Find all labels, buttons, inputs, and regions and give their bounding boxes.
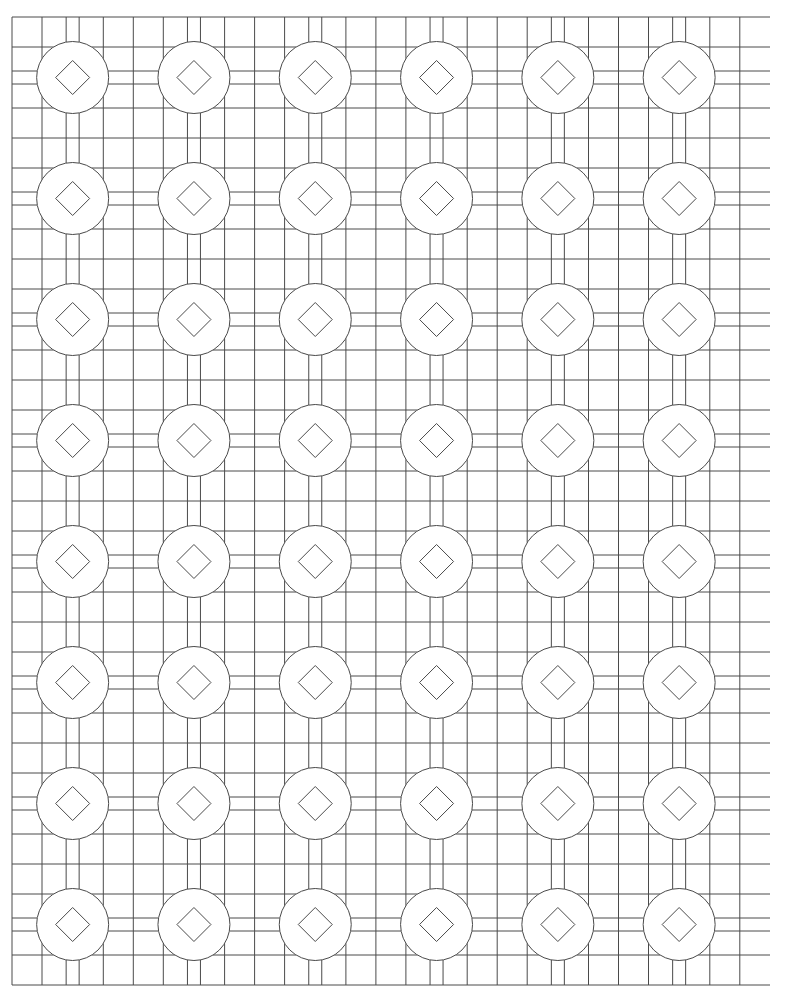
circle-outline	[279, 163, 351, 235]
circle-outline	[279, 647, 351, 719]
circle-outline	[158, 647, 230, 719]
circle-outline	[401, 42, 473, 114]
circle-outline	[37, 163, 109, 235]
circle-outline	[279, 284, 351, 356]
circle-outline	[401, 768, 473, 840]
pattern-artwork	[0, 0, 786, 993]
circle-outline	[522, 405, 594, 477]
circle-outline	[279, 526, 351, 598]
circle-outline	[158, 526, 230, 598]
circle-outline	[643, 526, 715, 598]
circle-outline	[37, 284, 109, 356]
circle-outline	[401, 284, 473, 356]
circle-outline	[158, 768, 230, 840]
circle-outline	[401, 163, 473, 235]
circle-outline	[522, 889, 594, 961]
circle-outline	[643, 768, 715, 840]
circle-outline	[522, 42, 594, 114]
circle-outline	[279, 42, 351, 114]
circle-outline	[279, 405, 351, 477]
circle-outline	[643, 42, 715, 114]
circle-outline	[643, 163, 715, 235]
circle-outline	[401, 647, 473, 719]
circle-outline	[522, 284, 594, 356]
circle-outline	[37, 647, 109, 719]
circle-outline	[522, 526, 594, 598]
circle-outline	[401, 526, 473, 598]
circle-outline	[643, 284, 715, 356]
circle-outline	[37, 405, 109, 477]
circle-outline	[158, 889, 230, 961]
circle-outline	[158, 42, 230, 114]
artwork-background	[0, 0, 786, 993]
circle-outline	[279, 768, 351, 840]
circle-outline	[643, 647, 715, 719]
circle-outline	[158, 405, 230, 477]
circle-outline	[401, 405, 473, 477]
circle-outline	[643, 405, 715, 477]
circle-outline	[37, 42, 109, 114]
circle-outline	[158, 284, 230, 356]
circle-outline	[158, 163, 230, 235]
circle-outline	[643, 889, 715, 961]
circle-outline	[522, 163, 594, 235]
circle-outline	[522, 647, 594, 719]
pattern-canvas	[0, 0, 786, 993]
circle-outline	[37, 526, 109, 598]
circle-outline	[279, 889, 351, 961]
circle-outline	[37, 889, 109, 961]
circle-outline	[522, 768, 594, 840]
circle-outline	[37, 768, 109, 840]
circle-outline	[401, 889, 473, 961]
